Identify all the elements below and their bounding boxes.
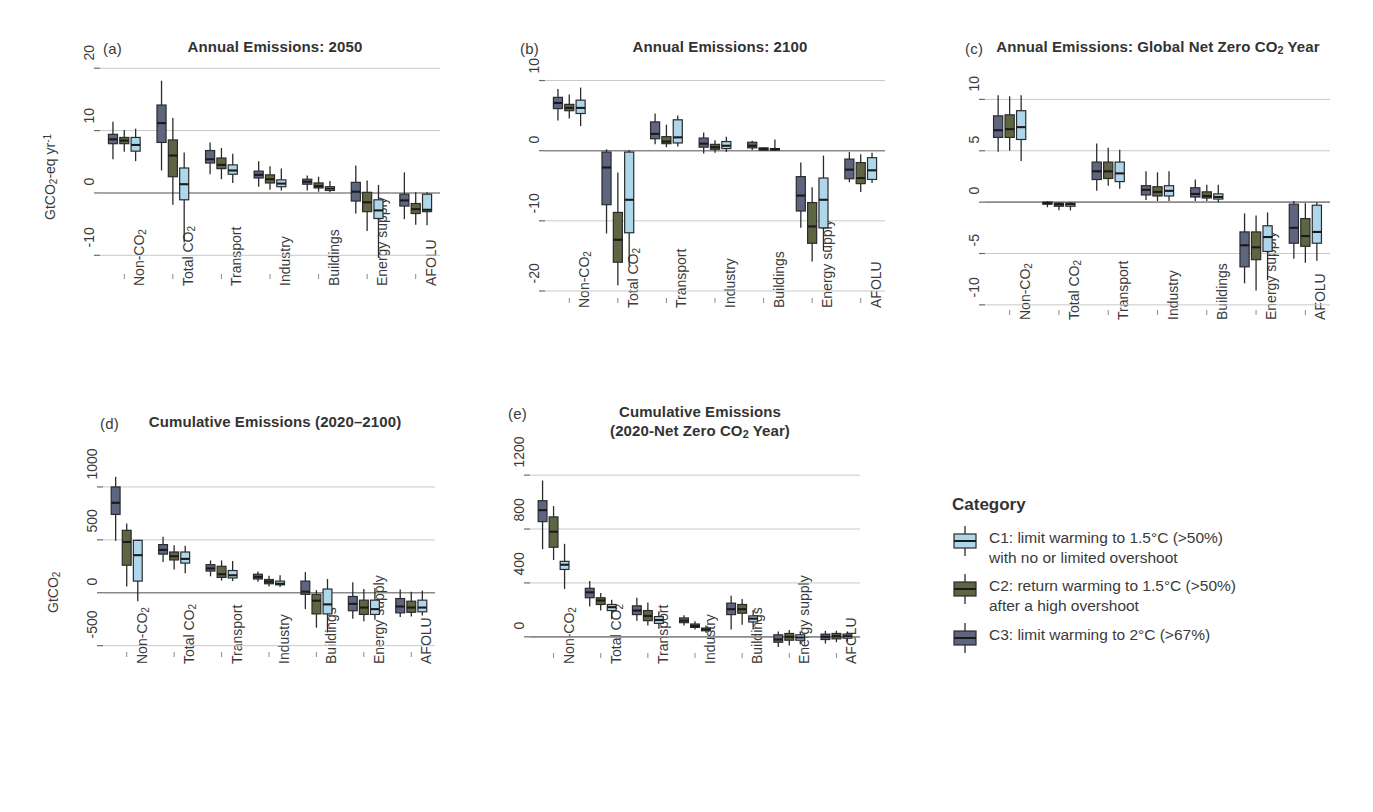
panel-tag-e: (e): [508, 405, 527, 422]
legend-box-icon: [952, 524, 978, 558]
boxplot-e-3-C2: [691, 621, 700, 629]
box-rect: [673, 120, 682, 143]
boxplot-c-2-C2: [1104, 148, 1113, 186]
boxplot-c-2-C1: [1115, 150, 1124, 189]
boxplot-a-6-C1: [423, 192, 432, 225]
legend-label-C2: C2: return warming to 1.5°C (>50%)after …: [989, 572, 1236, 615]
box-rect: [228, 571, 237, 578]
legend-item-C2[interactable]: C2: return warming to 1.5°C (>50%)after …: [952, 572, 1352, 615]
legend-title: Category: [952, 495, 1352, 515]
y-tick-label-d-0: 1000: [84, 478, 100, 479]
box-rect: [576, 100, 585, 113]
boxplot-c-4-C2: [1202, 185, 1211, 201]
boxplot-b-0-C1: [576, 88, 585, 127]
y-tick-label-e-1: 800: [511, 521, 527, 522]
boxplot-c-4-C3: [1191, 180, 1200, 202]
boxplot-d-4-C3: [301, 572, 310, 609]
boxplot-a-5-C3: [351, 166, 360, 214]
box-rect: [217, 566, 226, 577]
boxplot-d-5-C3: [348, 582, 357, 619]
boxplot-c-4-C1: [1214, 185, 1223, 202]
boxplot-e-0-C2: [549, 506, 558, 560]
y-tick-label-a-3: -10: [81, 247, 97, 248]
boxplot-c-3-C2: [1153, 172, 1162, 201]
box-rect: [1005, 115, 1014, 138]
y-tick-label-a-2: 0: [81, 184, 97, 185]
boxplot-a-4-C2: [314, 177, 323, 192]
box-rect: [796, 177, 805, 211]
boxplot-c-6-C3: [1289, 201, 1298, 259]
boxplot-b-2-C3: [651, 113, 660, 144]
boxplot-c-0-C2: [1005, 96, 1014, 150]
boxplot-d-4-C2: [312, 590, 321, 628]
boxplot-d-6-C2: [407, 592, 416, 617]
panel-title-b: Annual Emissions: 2100: [555, 38, 885, 57]
boxplot-e-3-C3: [680, 615, 689, 625]
box-rect: [625, 152, 634, 233]
box-rect: [1115, 162, 1124, 182]
boxplot-a-3-C3: [254, 161, 263, 187]
plot-area-d: [103, 470, 475, 782]
box-rect: [662, 137, 671, 144]
y-tick-label-b-2: -10: [526, 212, 542, 213]
box-rect: [206, 151, 215, 163]
y-tick-label-e-2: 400: [511, 574, 527, 575]
legend-swatch-C1: [952, 524, 978, 558]
y-tick-label-b-1: 0: [526, 142, 542, 143]
boxplot-b-0-C2: [565, 95, 574, 119]
boxplot-c-3-C3: [1141, 171, 1150, 200]
boxplot-a-4-C3: [303, 175, 312, 190]
y-tick-label-c-3: -5: [966, 245, 982, 246]
y-tick-label-b-3: -20: [526, 282, 542, 283]
y-tick-label-d-1: 500: [84, 531, 100, 532]
boxplot-e-2-C2: [643, 602, 652, 625]
boxplot-e-1-C3: [585, 581, 594, 607]
legend-item-C3[interactable]: C3: limit warming to 2°C (>67%): [952, 621, 1352, 655]
legend-item-C1[interactable]: C1: limit warming to 1.5°C (>50%)with no…: [952, 524, 1352, 567]
boxplot-b-1-C1: [625, 150, 634, 266]
boxplot-b-5-C2: [808, 187, 817, 261]
box-rect: [111, 487, 120, 515]
box-rect: [374, 200, 383, 219]
y-tick-label-a-0: 20: [81, 60, 97, 61]
boxplot-c-1-C2: [1054, 202, 1063, 210]
box-rect: [1251, 232, 1260, 260]
boxplot-b-4-C3: [748, 141, 757, 150]
plot-area-a: [100, 62, 480, 404]
boxplot-b-5-C1: [819, 156, 828, 251]
boxplot-d-2-C2: [217, 560, 226, 580]
boxplot-d-6-C3: [396, 590, 405, 618]
boxplot-a-3-C2: [265, 166, 274, 190]
box-rect: [819, 178, 828, 228]
boxplot-a-1-C3: [157, 81, 166, 171]
box-rect: [312, 594, 321, 614]
boxplot-e-6-C3: [821, 631, 830, 644]
legend-box-icon: [952, 572, 978, 606]
boxplot-e-5-C3: [774, 631, 783, 646]
boxplot-e-6-C1: [843, 631, 852, 641]
y-tick-label-c-4: -10: [966, 296, 982, 297]
boxplot-e-1-C2: [596, 593, 605, 611]
boxplot-a-2-C2: [217, 148, 226, 179]
box-rect: [1312, 205, 1321, 243]
y-axis-label-d: GtCO2: [45, 572, 62, 613]
box-rect: [856, 163, 865, 184]
plot-area-c: [985, 84, 1370, 440]
box-rect: [868, 158, 877, 180]
boxplot-d-5-C2: [359, 589, 368, 621]
boxplot-e-1-C1: [607, 600, 616, 620]
boxplot-a-0-C1: [131, 129, 140, 161]
boxplot-c-5-C2: [1251, 215, 1260, 290]
boxplot-e-0-C3: [538, 481, 547, 550]
panel-title-d: Cumulative Emissions (2020–2100): [110, 413, 440, 432]
y-tick-label-d-3: -500: [84, 637, 100, 638]
boxplot-a-2-C1: [228, 154, 237, 183]
box-rect: [133, 540, 142, 581]
boxplot-e-0-C1: [560, 544, 569, 589]
boxplot-b-0-C3: [553, 89, 562, 121]
y-axis-label-a: GtCO2-eq yr-1: [42, 134, 59, 220]
boxplot-e-2-C1: [654, 611, 663, 629]
box-rect: [994, 116, 1003, 138]
boxplot-d-2-C1: [228, 561, 237, 581]
legend-label-C1: C1: limit warming to 1.5°C (>50%)with no…: [989, 524, 1223, 567]
